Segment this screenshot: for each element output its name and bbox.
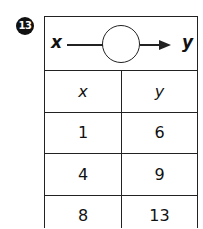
table-row: 4 9 [45, 154, 197, 196]
input-line [67, 44, 103, 46]
table-row: 1 6 [45, 113, 197, 155]
cell-x: 4 [45, 154, 122, 195]
input-label: x [51, 32, 62, 52]
cell-x: 8 [45, 196, 122, 229]
cell-x: 1 [45, 113, 122, 154]
output-label: y [182, 32, 193, 52]
column-header-x: x [45, 71, 122, 112]
function-machine: x y [45, 17, 197, 71]
function-table: x y x y 1 6 4 9 8 13 [44, 16, 198, 228]
arrow-right-icon [159, 40, 171, 50]
column-header-y: y [122, 71, 197, 112]
table-header-row: x y [45, 71, 197, 113]
table-row: 8 13 [45, 196, 197, 229]
problem-number-badge: 13 [16, 17, 34, 35]
cell-y: 9 [122, 154, 197, 195]
rule-circle [102, 25, 140, 63]
cell-y: 13 [122, 196, 197, 229]
cell-y: 6 [122, 113, 197, 154]
